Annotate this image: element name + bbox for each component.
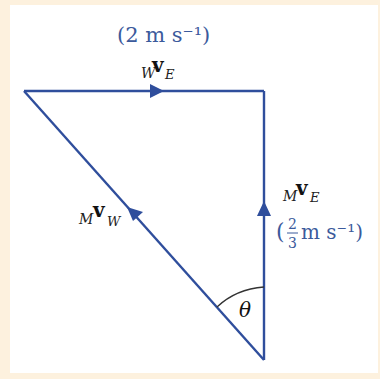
svg-text:v: v [92, 198, 106, 222]
svg-text:v: v [295, 176, 309, 200]
svg-text:M: M [78, 211, 94, 227]
svg-text:m s⁻¹): m s⁻¹) [301, 220, 363, 244]
svg-text:3: 3 [288, 235, 297, 251]
arrow-right-icon [150, 84, 164, 98]
svg-text:2: 2 [288, 216, 297, 232]
svg-text:E: E [309, 190, 320, 205]
wve-magnitude-label: (2 m s⁻¹) [117, 23, 210, 47]
arrow-up-icon [257, 201, 271, 216]
vector-triangle-diagram: (2 m s⁻¹) W v E M v E ( 2 3 m s⁻¹) M v W… [0, 0, 380, 379]
mve-magnitude-label: ( 2 3 m s⁻¹) [276, 216, 363, 251]
svg-text:W: W [107, 214, 122, 229]
svg-text:v: v [151, 53, 165, 77]
svg-text:(: ( [276, 219, 285, 244]
arrow-up-left-icon [127, 207, 143, 221]
mve-label: M v E [282, 176, 320, 205]
mvw-line [24, 91, 264, 360]
wve-label: W v E [141, 53, 175, 82]
svg-text:E: E [164, 67, 175, 82]
angle-theta-label: θ [239, 298, 251, 322]
mvw-label: M v W [78, 198, 122, 229]
